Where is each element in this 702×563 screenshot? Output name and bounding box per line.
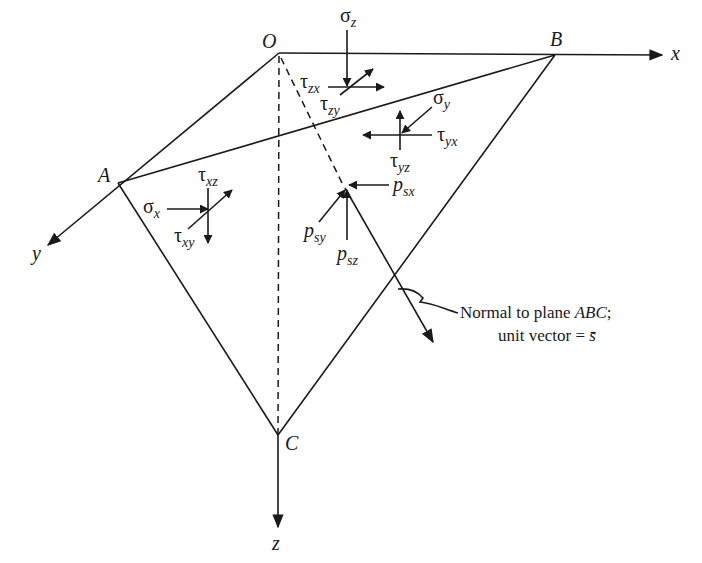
tau-xy-label: τxy bbox=[174, 224, 195, 250]
annotation-line-2: unit vector = s̄ bbox=[498, 326, 597, 345]
tau-yx-label: τyx bbox=[437, 123, 458, 149]
normal-vector-arrow bbox=[345, 188, 433, 342]
annotation-leader-line bbox=[398, 289, 458, 313]
point-c-label: C bbox=[285, 432, 299, 454]
p-sx-label: psx bbox=[391, 173, 415, 199]
x-axis bbox=[279, 53, 662, 55]
sigma-z-label: σz bbox=[340, 4, 357, 30]
z-axis bbox=[278, 56, 279, 527]
sigma-y-label: σy bbox=[433, 86, 451, 112]
tau-zy-label: τzy bbox=[320, 92, 340, 118]
p-sz-label: psz bbox=[335, 242, 358, 268]
point-b-label: B bbox=[550, 28, 562, 50]
x-face-stresses: σx τxz τxy bbox=[143, 163, 232, 250]
diagram-canvas: O B A C x y z σz τzx τzy σy τyx τyz bbox=[0, 0, 702, 563]
sigma-x-label: σx bbox=[143, 195, 161, 221]
normal-annotation: Normal to plane ABC; unit vector = s̄ bbox=[460, 303, 612, 345]
tau-xz-label: τxz bbox=[198, 163, 218, 189]
point-o-label: O bbox=[262, 30, 276, 52]
z-face-stresses: σz τzx τzy bbox=[300, 4, 384, 118]
annotation-line-1: Normal to plane ABC; bbox=[460, 303, 612, 322]
p-sy-label: psy bbox=[302, 219, 326, 245]
z-axis-label: z bbox=[271, 532, 280, 554]
y-axis bbox=[48, 53, 279, 245]
point-a-label: A bbox=[96, 164, 111, 186]
traction-components: psx psy psz bbox=[302, 173, 415, 268]
stress-tetrahedron-diagram: O B A C x y z σz τzx τzy σy τyx τyz bbox=[0, 0, 702, 563]
tau-zx-label: τzx bbox=[300, 70, 320, 96]
y-face-stresses: σy τyx τyz bbox=[363, 86, 458, 175]
tau-yz-label: τyz bbox=[390, 149, 410, 175]
dashed-line-o-to-p bbox=[281, 58, 343, 185]
y-axis-label: y bbox=[30, 242, 41, 265]
x-axis-label: x bbox=[670, 42, 680, 64]
